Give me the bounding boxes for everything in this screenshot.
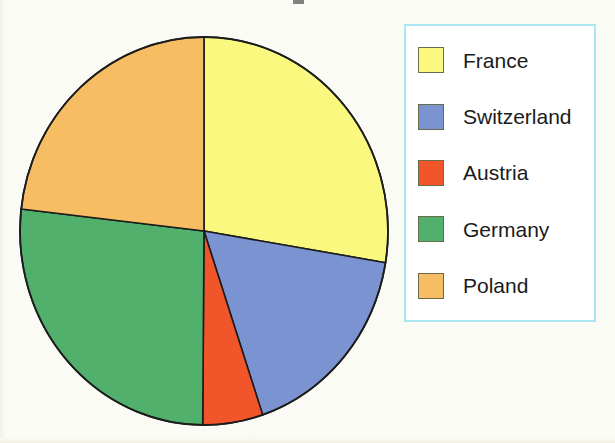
legend-label-france: France [463, 50, 528, 71]
legend-label-switzerland: Switzerland [463, 106, 572, 127]
legend-swatch-poland [418, 273, 444, 299]
legend-swatch-france [418, 47, 444, 73]
legend-item-germany[interactable]: Germany [406, 204, 594, 254]
pie-chart: France 27.6Switzerland 17.2Austria 5.3Ge… [0, 0, 410, 443]
legend-item-poland[interactable]: Poland [406, 261, 594, 311]
legend-item-france[interactable]: France [406, 35, 594, 85]
legend-item-switzerland[interactable]: Switzerland [406, 92, 594, 142]
legend-label-germany: Germany [463, 219, 549, 240]
pie-chart-svg: France 27.6Switzerland 17.2Austria 5.3Ge… [0, 0, 410, 443]
legend-swatch-germany [418, 216, 444, 242]
pie-slice-germany[interactable]: Germany 26.7 [20, 209, 204, 425]
chart-legend: FranceSwitzerlandAustriaGermanyPoland [404, 24, 596, 322]
legend-swatch-switzerland [418, 104, 444, 130]
legend-item-austria[interactable]: Austria [406, 148, 594, 198]
pie-slice-group: France 27.6Switzerland 17.2Austria 5.3Ge… [20, 37, 388, 425]
legend-item-list: FranceSwitzerlandAustriaGermanyPoland [406, 26, 594, 320]
pie-slice-france[interactable]: France 27.6 [204, 37, 388, 263]
pie-slice-poland[interactable]: Poland 23.2 [21, 37, 204, 231]
legend-label-austria: Austria [463, 162, 528, 183]
chart-page: France 27.6Switzerland 17.2Austria 5.3Ge… [0, 0, 615, 443]
legend-swatch-austria [418, 160, 444, 186]
legend-label-poland: Poland [463, 275, 528, 296]
